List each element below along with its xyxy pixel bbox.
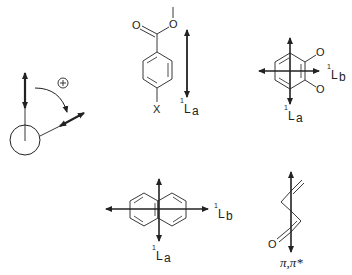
svg-text:a: a: [296, 111, 303, 125]
svg-text:b: b: [226, 209, 233, 223]
tilted-transition-moment-arrow: [60, 113, 84, 126]
pi-pi-star-label: π,π*: [280, 255, 303, 270]
svg-text:a: a: [192, 104, 199, 118]
ester-oxygen-label: O: [169, 18, 178, 30]
naphthalene-panel: 1 L b 1 L a: [106, 179, 233, 265]
lb-band-label: 1 L b: [327, 63, 346, 84]
svg-text:L: L: [184, 102, 191, 116]
svg-text:L: L: [218, 207, 225, 221]
rotation-arrow-icon: [35, 88, 67, 112]
la-band-label: 1 L a: [180, 97, 199, 118]
quinone-panel: O O 1 L b 1 L a: [259, 38, 346, 125]
benzoate-panel: O O X 1 L a: [132, 7, 199, 118]
plus-circle-icon: [58, 78, 68, 88]
quinone-oxygen-2: O: [316, 83, 325, 95]
tilted-connector-line: [40, 125, 62, 136]
svg-text:b: b: [339, 70, 346, 84]
quinone-oxygen-1: O: [316, 46, 325, 58]
svg-text:a: a: [164, 251, 171, 265]
enone-panel: O π,π*: [268, 172, 304, 270]
svg-text:L: L: [331, 68, 338, 82]
carbonyl-oxygen-label: O: [132, 19, 141, 31]
svg-text:L: L: [156, 249, 163, 263]
enone-oxygen-label: O: [268, 238, 277, 250]
la-band-label: 1 L a: [284, 104, 303, 125]
la-band-label: 1 L a: [152, 244, 171, 265]
lb-band-label: 1 L b: [214, 202, 233, 223]
svg-text:L: L: [288, 109, 295, 123]
rotation-convention-panel: [10, 73, 84, 155]
diagram-canvas: O O X 1 L a O O 1 L b 1 L a: [0, 0, 352, 275]
substituent-label: X: [153, 103, 161, 115]
